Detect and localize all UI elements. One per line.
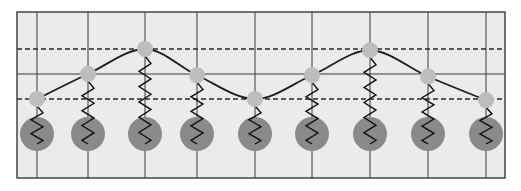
string-node xyxy=(247,91,263,107)
string-node xyxy=(189,67,205,83)
string-node xyxy=(304,67,320,83)
diagram-stage xyxy=(0,0,521,191)
string-node xyxy=(362,42,378,58)
wave-oscillator-diagram xyxy=(0,0,521,191)
mass-ball xyxy=(20,117,54,151)
string-node xyxy=(420,69,436,85)
mass-ball xyxy=(238,117,272,151)
string-node xyxy=(137,41,153,57)
string-node xyxy=(478,92,494,108)
string-node xyxy=(80,66,96,82)
mass-ball xyxy=(469,117,503,151)
mass-ball xyxy=(128,117,162,151)
string-node xyxy=(29,91,45,107)
